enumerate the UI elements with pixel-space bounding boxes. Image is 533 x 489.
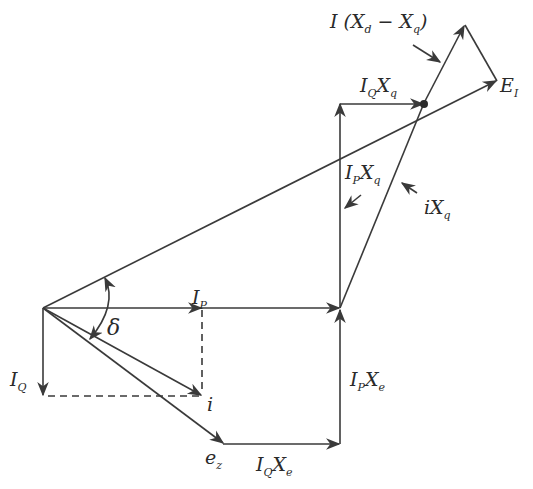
junction-dot — [420, 100, 428, 108]
ei-closing-line — [465, 25, 497, 81]
label-iq: IQ — [10, 370, 27, 393]
label-i: i — [207, 395, 213, 414]
ez-vector — [43, 308, 223, 443]
ixdxq-pointer — [413, 45, 440, 62]
ei-vector — [43, 81, 496, 308]
i-vector — [43, 308, 201, 395]
label-ixdxq: I (Xd − Xq) — [330, 12, 428, 35]
ixdxq-vector — [424, 26, 464, 103]
ixq-pointer — [402, 183, 417, 193]
ipxq-pointer — [345, 195, 361, 208]
label-ixq: iXq — [424, 198, 451, 221]
label-iqxe: IQXe — [256, 455, 293, 478]
label-ipxe: IPXe — [350, 370, 385, 393]
label-ei: EI — [500, 76, 518, 99]
label-ez: ez — [205, 448, 222, 471]
phasor-diagram — [0, 0, 533, 489]
ixq-vector — [340, 103, 424, 308]
label-ip: IP — [192, 288, 207, 311]
label-iqxq: IQXq — [360, 76, 397, 99]
label-delta: δ — [107, 317, 120, 339]
label-ipxq: IPXq — [345, 163, 381, 186]
